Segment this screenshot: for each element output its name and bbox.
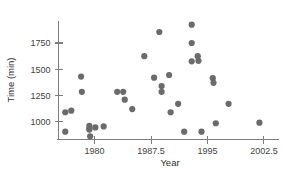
- data-point: [189, 40, 195, 46]
- data-point: [198, 129, 204, 135]
- data-point: [92, 124, 98, 130]
- data-point: [168, 109, 174, 115]
- data-point: [68, 108, 74, 114]
- data-point: [159, 83, 165, 89]
- x-tick-label: 1995: [197, 146, 217, 156]
- data-points-layer: [62, 22, 262, 140]
- y-tick-label: 1750: [30, 38, 50, 48]
- y-tick-label: 1250: [30, 91, 50, 101]
- x-axis-title: Year: [160, 157, 179, 168]
- data-point: [101, 123, 107, 129]
- data-point: [175, 101, 181, 107]
- data-point: [122, 97, 128, 103]
- data-point: [86, 126, 92, 132]
- y-axis-title: Time (min): [5, 57, 16, 102]
- data-point: [129, 106, 135, 112]
- data-point: [156, 29, 162, 35]
- data-point: [189, 58, 195, 64]
- chart-canvas: 1000125015001750 19801987.519952002.5 Ti…: [0, 0, 283, 183]
- data-point: [195, 58, 201, 64]
- data-point: [141, 53, 147, 59]
- data-point: [210, 80, 216, 86]
- data-point: [87, 133, 93, 139]
- scatter-plot-figure: 1000125015001750 19801987.519952002.5 Ti…: [0, 0, 283, 183]
- x-tick-label: 1980: [85, 146, 105, 156]
- data-point: [62, 129, 68, 135]
- data-point: [120, 89, 126, 95]
- data-point: [256, 120, 262, 126]
- data-point: [79, 89, 85, 95]
- x-tick-label: 1987.5: [137, 146, 165, 156]
- x-axis-ticks: 19801987.519952002.5: [85, 136, 278, 156]
- data-point: [213, 120, 219, 126]
- x-tick-label: 2002.5: [250, 146, 278, 156]
- y-axis-ticks: 1000125015001750: [30, 38, 62, 127]
- axes-group: [57, 21, 279, 140]
- y-tick-label: 1500: [30, 65, 50, 75]
- y-tick-label: 1000: [30, 117, 50, 127]
- data-point: [62, 109, 68, 115]
- data-point: [78, 73, 84, 79]
- data-point: [159, 89, 165, 95]
- data-point: [114, 89, 120, 95]
- data-point: [225, 101, 231, 107]
- data-point: [166, 72, 172, 78]
- data-point: [151, 75, 157, 81]
- data-point: [181, 129, 187, 135]
- data-point: [189, 22, 195, 28]
